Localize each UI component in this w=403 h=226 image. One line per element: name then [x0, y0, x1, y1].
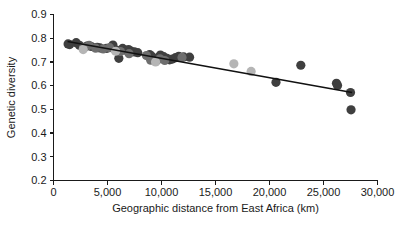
data-point: [133, 48, 142, 57]
x-tick-label: 10,000: [145, 186, 179, 198]
trend-line: [68, 42, 353, 93]
data-points-group: [63, 38, 355, 114]
data-point: [160, 56, 169, 65]
y-tick-label: 0.6: [31, 79, 46, 91]
y-tick-label: 0.3: [31, 151, 46, 163]
x-tick-label: 25,000: [307, 186, 341, 198]
data-point: [296, 61, 305, 70]
y-tick-label: 0.4: [31, 127, 46, 139]
x-tick-label: 20,000: [253, 186, 287, 198]
chart-canvas: 0.20.30.40.50.60.70.80.905,00010,00015,0…: [0, 0, 403, 226]
x-tick-label: 0: [50, 186, 56, 198]
y-tick-label: 0.9: [31, 8, 46, 20]
scatter-chart: 0.20.30.40.50.60.70.80.905,00010,00015,0…: [0, 0, 403, 226]
data-point: [177, 53, 186, 62]
x-tick-label: 5,000: [94, 186, 122, 198]
x-tick-label: 30,000: [361, 186, 395, 198]
y-tick-label: 0.8: [31, 32, 46, 44]
data-point: [151, 57, 160, 66]
x-tick-label: 15,000: [199, 186, 233, 198]
data-point: [346, 105, 355, 114]
data-point: [79, 45, 88, 54]
y-axis-title: Genetic diversity: [5, 56, 17, 138]
y-tick-label: 0.7: [31, 56, 46, 68]
y-tick-label: 0.2: [31, 174, 46, 186]
data-point: [229, 59, 238, 68]
y-tick-label: 0.5: [31, 103, 46, 115]
x-axis-title: Geographic distance from East Africa (km…: [112, 202, 319, 214]
